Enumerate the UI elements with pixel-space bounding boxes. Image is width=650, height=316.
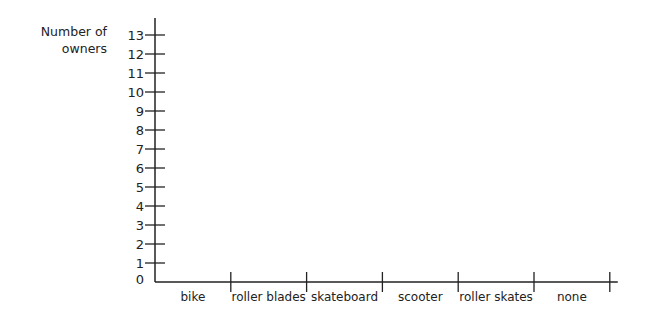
y-tick-label: 5 bbox=[136, 180, 144, 195]
y-tick-label: 4 bbox=[136, 199, 144, 214]
y-tick-label: 7 bbox=[136, 142, 144, 157]
x-category-label: skateboard bbox=[311, 290, 378, 304]
y-tick-label: 12 bbox=[127, 47, 144, 62]
y-tick-label: 0 bbox=[136, 272, 144, 287]
x-category-label: scooter bbox=[398, 290, 443, 304]
y-tick-label: 11 bbox=[127, 66, 144, 81]
y-tick-label: 13 bbox=[127, 28, 144, 43]
y-tick-label: 6 bbox=[136, 161, 144, 176]
x-category-label: bike bbox=[180, 290, 205, 304]
y-tick-label: 9 bbox=[136, 104, 144, 119]
bar-chart: 012345678910111213bikeroller bladesskate… bbox=[0, 0, 650, 316]
y-tick-label: 3 bbox=[136, 218, 144, 233]
x-category-label: none bbox=[557, 290, 587, 304]
y-tick-label: 1 bbox=[136, 256, 144, 271]
x-category-label: roller blades bbox=[232, 290, 306, 304]
y-tick-label: 8 bbox=[136, 123, 144, 138]
y-tick-label: 10 bbox=[127, 85, 144, 100]
y-tick-label: 2 bbox=[136, 237, 144, 252]
x-category-label: roller skates bbox=[459, 290, 533, 304]
